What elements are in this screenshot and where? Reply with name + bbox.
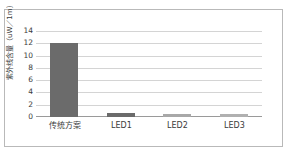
- bar: [163, 114, 191, 117]
- y-tick-label: 12: [23, 39, 33, 47]
- bar: [107, 113, 135, 117]
- bar: [220, 114, 248, 117]
- y-tick-label: 10: [23, 52, 33, 60]
- y-tick-label: 14: [23, 27, 33, 35]
- x-tick-label: 传统方案: [36, 120, 93, 131]
- y-tick-label: 0: [28, 113, 33, 121]
- x-tick-label: LED3: [206, 120, 263, 131]
- chart-figure: 紫外线含量（uW／1m） 14121086420 传统方案LED1LED2LED…: [0, 0, 292, 155]
- y-tick-label: 6: [28, 76, 33, 84]
- y-axis-tick-labels: 14121086420: [14, 31, 33, 117]
- gridline: [36, 31, 262, 32]
- y-tick-label: 8: [28, 64, 33, 72]
- plot-area: [36, 31, 262, 117]
- y-tick-label: 2: [28, 101, 33, 109]
- x-tick-label: LED1: [93, 120, 150, 131]
- y-axis-title: 紫外线含量（uW／1m）: [4, 10, 14, 80]
- bar: [50, 43, 78, 117]
- y-tick-label: 4: [28, 88, 33, 96]
- x-tick-label: LED2: [149, 120, 206, 131]
- x-axis-tick-labels: 传统方案LED1LED2LED3: [36, 120, 262, 134]
